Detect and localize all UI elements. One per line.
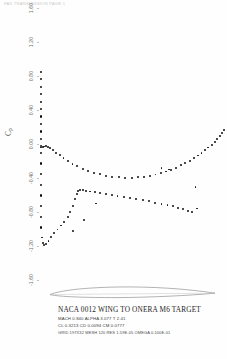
data-point — [223, 129, 225, 131]
y-tick: -0.40 — [22, 178, 40, 179]
y-tick-mark — [37, 178, 39, 179]
data-point — [55, 152, 57, 154]
data-point — [52, 149, 54, 151]
data-point — [175, 167, 177, 169]
data-point — [40, 138, 42, 140]
y-axis-label-sub: p — [7, 128, 13, 131]
data-point — [221, 132, 223, 134]
data-point — [99, 173, 101, 175]
data-point — [214, 141, 216, 143]
data-point — [154, 202, 156, 204]
caption-block: NACA 0012 WING TO ONERA M6 TARGET MACH 0… — [58, 305, 226, 335]
data-point — [85, 190, 87, 192]
data-point — [117, 195, 119, 197]
data-point — [196, 208, 198, 210]
data-point — [40, 86, 42, 88]
y-tick-label: 0.40 — [28, 105, 34, 115]
data-point — [105, 193, 107, 195]
data-point — [161, 203, 163, 205]
data-point — [95, 203, 97, 205]
data-point — [93, 172, 95, 174]
data-point — [74, 198, 76, 200]
data-point — [76, 165, 78, 167]
data-point — [40, 71, 42, 73]
data-point — [111, 176, 113, 178]
caption-conditions: MACH 0.840 ALPHA 3.077 T 2.41 — [58, 316, 226, 321]
y-axis-label: Cp — [4, 128, 13, 136]
y-tick-mark — [37, 246, 39, 247]
y-tick-label: 1.60 — [28, 3, 34, 13]
data-point — [82, 189, 84, 191]
y-tick-label: 0.80 — [28, 71, 34, 81]
data-point — [67, 160, 69, 162]
data-point — [193, 157, 195, 159]
y-tick-mark — [37, 42, 39, 43]
data-point — [40, 184, 42, 186]
data-point — [201, 152, 203, 154]
data-point — [182, 208, 184, 210]
data-point — [111, 194, 113, 196]
caption-coefficients: CL 0.3213 CD 0.0094 CM 0.0777 — [58, 323, 226, 328]
data-point — [40, 123, 42, 125]
data-point — [135, 198, 137, 200]
y-tick-mark — [37, 76, 39, 77]
data-point — [41, 237, 43, 239]
data-point — [40, 162, 42, 164]
y-tick: -1.60 — [22, 280, 40, 281]
airfoil-profile — [46, 282, 221, 304]
data-point — [219, 135, 221, 137]
data-point — [49, 147, 51, 149]
y-tick-mark — [37, 8, 39, 9]
data-point — [40, 108, 42, 110]
data-point — [83, 219, 85, 221]
data-point — [50, 236, 52, 238]
data-point — [63, 157, 65, 159]
y-tick: -0.80 — [22, 212, 40, 213]
data-point — [161, 167, 163, 169]
data-point — [63, 221, 65, 223]
y-tick: -1.20 — [22, 246, 40, 247]
y-tick: 1.60 — [22, 8, 40, 9]
y-tick-mark — [37, 110, 39, 111]
data-point — [40, 130, 42, 132]
y-tick-label: -1.60 — [28, 274, 34, 286]
data-point — [79, 189, 81, 191]
data-point — [45, 243, 47, 245]
data-point — [72, 230, 74, 232]
y-tick: 1.20 — [22, 42, 40, 43]
data-point — [123, 196, 125, 198]
data-point — [148, 200, 150, 202]
data-point — [89, 191, 91, 193]
data-point — [149, 175, 151, 177]
data-point — [187, 210, 189, 212]
data-point — [143, 176, 145, 178]
y-tick-mark — [37, 144, 39, 145]
data-point — [204, 149, 206, 151]
y-tick-label: -0.80 — [28, 206, 34, 218]
data-point — [76, 193, 78, 195]
caption-grid-info: GRID 197X32 MESH 120 RES 1.59E-05 OMEGA … — [58, 330, 226, 335]
y-tick-label: 0.00 — [28, 139, 34, 149]
airfoil-outline-path — [50, 287, 215, 298]
data-point — [60, 225, 62, 227]
data-point — [67, 216, 69, 218]
y-tick-label: -0.40 — [28, 172, 34, 184]
data-point — [197, 155, 199, 157]
cp-plot: Cp -1.60-1.20-0.80-0.400.000.400.801.201… — [0, 8, 227, 280]
data-point — [207, 147, 209, 149]
data-point — [172, 205, 174, 207]
data-point — [82, 168, 84, 170]
data-point — [40, 115, 42, 117]
data-point — [211, 144, 213, 146]
data-point — [40, 194, 42, 196]
data-point — [191, 211, 193, 213]
data-point — [59, 154, 61, 156]
y-tick-label: -1.20 — [28, 240, 34, 252]
data-point — [180, 164, 182, 166]
data-point — [177, 207, 179, 209]
data-point — [124, 177, 126, 179]
data-points-canvas — [40, 8, 227, 280]
data-point — [57, 229, 59, 231]
data-point — [99, 192, 101, 194]
data-point — [72, 163, 74, 165]
